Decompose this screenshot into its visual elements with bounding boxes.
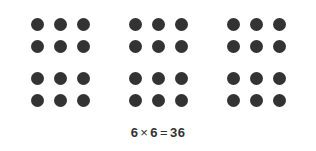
dot — [152, 18, 165, 31]
dot-group-5 — [109, 62, 207, 116]
dot — [77, 72, 90, 85]
dot — [227, 40, 240, 53]
equation-right-factor: 6 — [150, 125, 158, 140]
dot — [175, 18, 188, 31]
dot — [250, 18, 263, 31]
dot — [54, 94, 67, 107]
dot-group-3 — [207, 8, 305, 62]
dot — [152, 40, 165, 53]
dot-group-6 — [207, 62, 305, 116]
equals-operator: = — [158, 125, 170, 140]
dot-group-1 — [11, 8, 109, 62]
dot — [31, 40, 44, 53]
multiplication-operator: × — [138, 125, 150, 140]
dot — [227, 72, 240, 85]
dot — [175, 72, 188, 85]
dot — [250, 72, 263, 85]
dot — [77, 40, 90, 53]
dot — [31, 72, 44, 85]
equation-product: 36 — [170, 125, 185, 140]
dot — [54, 40, 67, 53]
dot — [77, 18, 90, 31]
dot — [175, 94, 188, 107]
dot — [129, 94, 142, 107]
dot — [54, 18, 67, 31]
dot-group-2 — [109, 8, 207, 62]
dot — [129, 40, 142, 53]
dot — [175, 40, 188, 53]
dot — [77, 94, 90, 107]
equation-caption: 6×6=36 — [0, 125, 316, 141]
dot — [227, 94, 240, 107]
dot — [129, 72, 142, 85]
dot — [273, 94, 286, 107]
dot — [31, 94, 44, 107]
dot — [273, 40, 286, 53]
dot-group-4 — [11, 62, 109, 116]
dot — [152, 72, 165, 85]
dot — [273, 72, 286, 85]
dot-groups-area — [11, 8, 305, 116]
dot — [273, 18, 286, 31]
dot — [31, 18, 44, 31]
dot — [250, 94, 263, 107]
dot — [227, 18, 240, 31]
dot — [54, 72, 67, 85]
dot — [250, 40, 263, 53]
dot — [152, 94, 165, 107]
dot — [129, 18, 142, 31]
array-model-figure: 6×6=36 — [0, 0, 316, 151]
